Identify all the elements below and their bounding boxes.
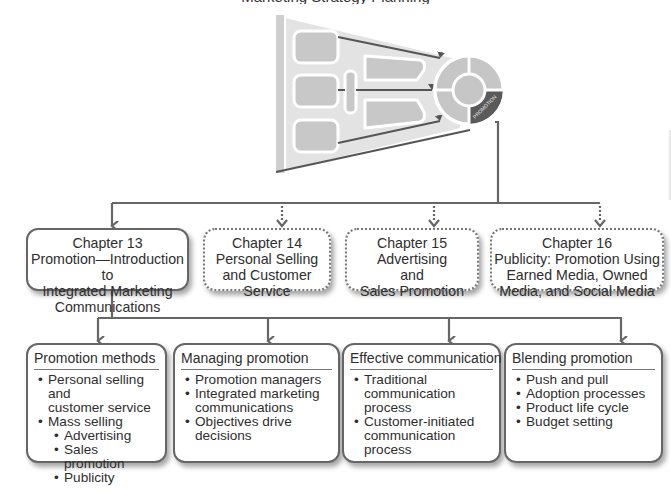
chapter-number: Chapter 14	[205, 235, 329, 251]
topic-list: Traditionalcommunication process Custome…	[350, 373, 493, 457]
chapter-15-box: Chapter 15 Advertising and Sales Promoti…	[345, 228, 479, 291]
chapter-title-line: Advertising	[347, 251, 477, 267]
list-item: Budget setting	[512, 415, 655, 429]
topic-heading: Blending promotion	[512, 349, 655, 370]
topic-list: Personal selling andcustomer service Mas…	[34, 373, 159, 485]
chapter-16-box: Chapter 16 Publicity: Promotion Using Ea…	[490, 228, 664, 291]
topic-heading: Promotion methods	[34, 349, 159, 370]
chapter-title-line: Sales Promotion	[347, 283, 477, 299]
list-item: Product life cycle	[512, 401, 655, 415]
chapter-title-line: Promotion—Introduction to	[28, 251, 187, 283]
list-subitem: Publicity	[34, 471, 159, 485]
chapter-14-box: Chapter 14 Personal Selling and Customer…	[203, 228, 331, 291]
list-item: Customer-initiatedcommunication process	[350, 415, 493, 457]
chapter-title-line: Earned Media, Owned	[492, 267, 662, 283]
chapter-title-line: Media, and Social Media	[492, 283, 662, 299]
topic-managing-promotion: Managing promotion Promotion managers In…	[173, 343, 340, 463]
list-item: Push and pull	[512, 373, 655, 387]
chapter-title-line: and	[347, 267, 477, 283]
chapter-number: Chapter 16	[492, 235, 662, 251]
topic-promotion-methods: Promotion methods Personal selling andcu…	[26, 343, 167, 463]
chapter-number: Chapter 13	[28, 235, 187, 251]
chapter-title-line: Communications	[28, 299, 187, 315]
chapter-title-line: Integrated Marketing	[28, 283, 187, 299]
list-subitem: Advertising	[34, 429, 159, 443]
list-item: Personal selling andcustomer service	[34, 373, 159, 415]
chapter-13-box: Chapter 13 Promotion—Introduction to Int…	[26, 228, 189, 291]
topic-blending-promotion: Blending promotion Push and pull Adoptio…	[504, 343, 663, 463]
list-subitem: Sales promotion	[34, 443, 159, 471]
chapter-title-line: and Customer	[205, 267, 329, 283]
chapter-title-line: Personal Selling	[205, 251, 329, 267]
topic-heading: Managing promotion	[181, 349, 332, 370]
topic-heading: Effective communication	[350, 349, 493, 370]
topic-effective-communication: Effective communication Traditionalcommu…	[342, 343, 501, 463]
chapter-title-line: Publicity: Promotion Using	[492, 251, 662, 267]
topic-list: Promotion managers Integrated marketingc…	[181, 373, 332, 443]
list-item: Promotion managers	[181, 373, 332, 387]
strategy-funnel-icon: PROMOTION	[276, 14, 504, 173]
list-item: Objectives drivedecisions	[181, 415, 332, 443]
list-item: Mass selling	[34, 415, 159, 429]
list-item: Adoption processes	[512, 387, 655, 401]
list-item: Traditionalcommunication process	[350, 373, 493, 415]
chapter-number: Chapter 15	[347, 235, 477, 251]
list-item: Integrated marketingcommunications	[181, 387, 332, 415]
topic-list: Push and pull Adoption processes Product…	[512, 373, 655, 429]
chapter-title-line: Service	[205, 283, 329, 299]
